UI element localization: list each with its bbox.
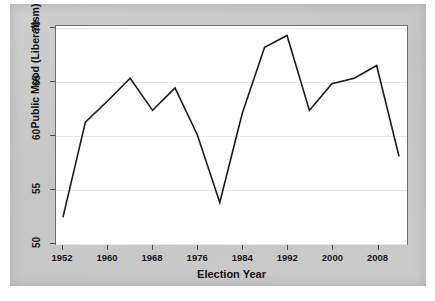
x-tick-mark-1984 — [242, 245, 243, 250]
x-axis-title: Election Year — [55, 268, 408, 280]
x-tick-mark-2000 — [332, 245, 333, 250]
plot-area — [55, 25, 408, 245]
x-tick-label-1992: 1992 — [269, 252, 305, 263]
y-tick-label-50: 50 — [31, 230, 42, 256]
x-tick-mark-1992 — [287, 245, 288, 250]
x-tick-label-1984: 1984 — [224, 252, 260, 263]
x-tick-mark-1968 — [152, 245, 153, 250]
figure-canvas: 5055606570 19521960196819761984199220002… — [0, 0, 435, 301]
public-mood-line-series — [56, 26, 407, 244]
x-tick-label-1976: 1976 — [179, 252, 215, 263]
x-tick-label-1952: 1952 — [44, 252, 80, 263]
x-tick-label-1960: 1960 — [89, 252, 125, 263]
y-axis-title: Public Mood (Liberalism) — [29, 0, 41, 146]
series-polyline — [63, 35, 399, 217]
x-tick-mark-1960 — [107, 245, 108, 250]
x-tick-label-1968: 1968 — [134, 252, 170, 263]
x-tick-label-2008: 2008 — [360, 252, 396, 263]
x-tick-mark-1952 — [62, 245, 63, 250]
gridline-y-50 — [56, 244, 407, 245]
x-tick-mark-2008 — [378, 245, 379, 250]
x-tick-label-2000: 2000 — [314, 252, 350, 263]
x-tick-mark-1976 — [197, 245, 198, 250]
y-tick-label-55: 55 — [31, 176, 42, 202]
